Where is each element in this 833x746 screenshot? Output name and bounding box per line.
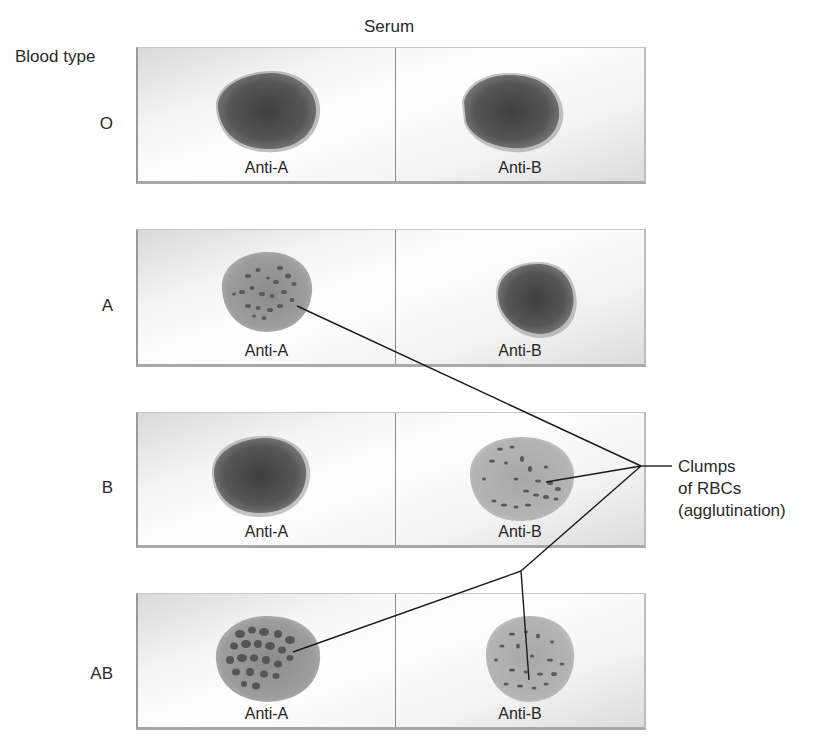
well-label: Anti-A <box>138 159 395 177</box>
slide-type-o: Anti-A Anti-B <box>136 47 646 184</box>
well-label: Anti-B <box>396 705 644 723</box>
blood-drop-uniform <box>492 258 582 342</box>
blood-type-header: Blood type <box>15 47 95 67</box>
blood-drop-uniform <box>204 68 324 158</box>
well-ab-anti-a: Anti-A <box>138 594 396 727</box>
well-b-anti-b: Anti-B <box>396 413 644 545</box>
blood-drop-uniform <box>206 433 318 521</box>
agglutination-callout: Clumps of RBCs (agglutination) <box>678 456 786 522</box>
well-a-anti-b: Anti-B <box>396 230 644 364</box>
slide-type-b: Anti-A Anti-B <box>136 412 646 548</box>
well-o-anti-a: Anti-A <box>138 48 396 181</box>
callout-line-2: of RBCs <box>678 478 786 500</box>
well-label: Anti-B <box>396 342 644 360</box>
well-label: Anti-A <box>138 705 395 723</box>
blood-drop-uniform <box>458 70 570 156</box>
blood-drop-agglutinated <box>210 610 326 706</box>
well-label: Anti-B <box>396 523 644 541</box>
blood-drop-agglutinated <box>466 433 582 525</box>
blood-drop-agglutinated <box>482 612 578 706</box>
row-label-a: A <box>53 296 113 316</box>
well-label: Anti-A <box>138 523 395 541</box>
blood-drop-agglutinated <box>218 248 318 336</box>
slide-type-a: Anti-A Anti-B <box>136 229 646 367</box>
well-a-anti-a: Anti-A <box>138 230 396 364</box>
callout-line-3: (agglutination) <box>678 500 786 522</box>
serum-header: Serum <box>364 17 414 37</box>
well-o-anti-b: Anti-B <box>396 48 644 181</box>
well-ab-anti-b: Anti-B <box>396 594 644 727</box>
row-label-b: B <box>53 478 113 498</box>
row-label-o: O <box>53 114 113 134</box>
row-label-ab: AB <box>53 664 113 684</box>
well-label: Anti-A <box>138 342 395 360</box>
well-b-anti-a: Anti-A <box>138 413 396 545</box>
slide-type-ab: Anti-A Anti-B <box>136 593 646 730</box>
callout-line-1: Clumps <box>678 456 786 478</box>
well-label: Anti-B <box>396 159 644 177</box>
